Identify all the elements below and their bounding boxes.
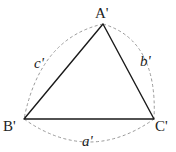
side-label-a: a' bbox=[82, 133, 94, 149]
vertex-label-b: B' bbox=[3, 118, 16, 134]
triangle-diagram: A' B' C' a' b' c' bbox=[0, 0, 176, 152]
vertex-label-a: A' bbox=[95, 5, 109, 21]
side-label-c: c' bbox=[34, 55, 45, 71]
side-label-b: b' bbox=[140, 53, 152, 69]
vertex-label-c: C' bbox=[155, 118, 168, 134]
triangle-abc bbox=[24, 24, 154, 119]
